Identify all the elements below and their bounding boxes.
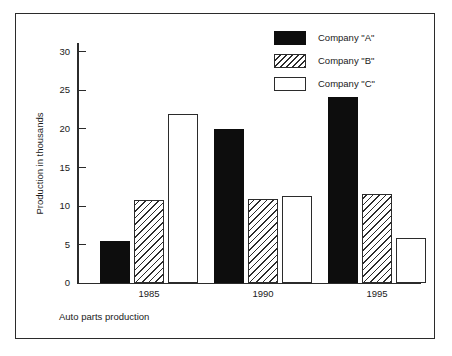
y-tick-0 bbox=[79, 283, 86, 284]
y-tick-label-0: 0 bbox=[30, 278, 70, 288]
x-tick-label-1985: 1985 bbox=[119, 289, 179, 299]
bar-1985-company-b bbox=[134, 200, 164, 284]
legend-swatch-solid-icon bbox=[274, 31, 306, 45]
legend-swatch-hatch-icon bbox=[274, 54, 306, 68]
bar-1990-company-a bbox=[214, 129, 244, 283]
y-tick-25 bbox=[79, 90, 86, 91]
y-axis-line bbox=[77, 43, 79, 284]
y-tick-label-5: 5 bbox=[30, 240, 70, 250]
x-axis-title: Auto parts production bbox=[59, 311, 149, 322]
legend-label-company-b: Company "B" bbox=[318, 55, 374, 66]
bar-1995-company-c bbox=[396, 238, 426, 283]
y-tick-10 bbox=[79, 206, 86, 207]
bar-1985-company-a bbox=[100, 241, 130, 283]
legend-label-company-c: Company "C" bbox=[318, 78, 375, 89]
y-tick-label-30: 30 bbox=[30, 47, 70, 57]
y-tick-15 bbox=[79, 167, 86, 168]
y-tick-20 bbox=[79, 128, 86, 129]
legend-swatch-open-icon bbox=[274, 77, 306, 91]
x-tick-label-1990: 1990 bbox=[233, 289, 293, 299]
x-tick-label-1995: 1995 bbox=[347, 289, 407, 299]
y-axis-title: Production in thousands bbox=[34, 94, 45, 234]
bar-1990-company-b bbox=[248, 199, 278, 283]
y-tick-30 bbox=[79, 51, 86, 52]
chart-legend: Company "A" Company "B" Company "C" bbox=[274, 30, 414, 99]
chart-figure: 30 25 20 15 10 5 0 Production in thousan… bbox=[0, 0, 452, 356]
legend-entry-company-a: Company "A" bbox=[274, 30, 414, 50]
y-tick-5 bbox=[79, 244, 86, 245]
bar-1995-company-b bbox=[362, 194, 392, 283]
legend-entry-company-c: Company "C" bbox=[274, 76, 414, 96]
legend-label-company-a: Company "A" bbox=[318, 32, 374, 43]
bar-1995-company-a bbox=[328, 97, 358, 283]
legend-entry-company-b: Company "B" bbox=[274, 53, 414, 73]
plot-area: 30 25 20 15 10 5 0 Production in thousan… bbox=[0, 0, 452, 356]
bar-1990-company-c bbox=[282, 196, 312, 283]
bar-1985-company-c bbox=[168, 114, 198, 283]
